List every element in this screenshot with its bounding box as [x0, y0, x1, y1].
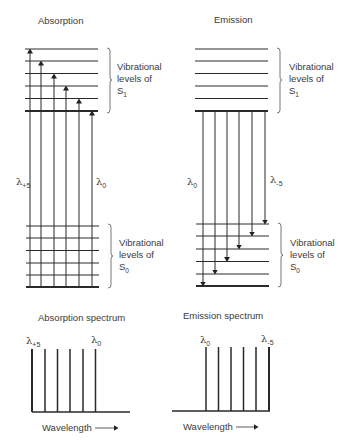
emission-s0-levels [196, 224, 269, 286]
absorption-title: Absorption [38, 16, 83, 26]
absorption-lambda-plus5: λ+5 [16, 177, 30, 189]
emission-s0-bracket [278, 223, 283, 287]
emission-spectrum-title: Emission spectrum [183, 311, 263, 321]
emission-s1-bracket [277, 48, 282, 113]
emission-spectrum-lambda-minus5: λ-5 [261, 334, 274, 346]
emission-spectrum-plot [172, 347, 270, 411]
emission-title: Emission [214, 15, 253, 25]
absorption-spectrum-lambda-plus5: λ+5 [26, 336, 40, 348]
absorption-spectrum-lambda-0: λ0 [91, 335, 101, 347]
emission-s1-label: Vibrational levels of S1 [289, 61, 334, 101]
emission-transition-arrows [203, 111, 265, 284]
absorption-s0-bracket [108, 224, 113, 288]
absorption-spectrum-plot [32, 349, 130, 412]
absorption-s0-levels [26, 226, 99, 287]
emission-lambda-0: λ0 [187, 177, 197, 189]
emission-s1-levels [195, 49, 268, 111]
absorption-s1-bracket [107, 48, 112, 113]
absorption-wavelength-label: Wavelength [42, 423, 92, 433]
absorption-s1-levels [25, 49, 98, 111]
absorption-lambda-0: λ0 [96, 177, 106, 189]
emission-spectrum-lambda-0: λ0 [200, 335, 210, 347]
absorption-s0-label: Vibrational levels of S0 [119, 237, 164, 277]
emission-wavelength-label: Wavelength [183, 422, 233, 432]
absorption-s1-label: Vibrational levels of S1 [117, 61, 162, 101]
absorption-spectrum-title: Absorption spectrum [38, 313, 125, 323]
emission-s0-label: Vibrational levels of S0 [290, 237, 335, 277]
emission-lambda-minus5: λ-5 [270, 175, 283, 187]
